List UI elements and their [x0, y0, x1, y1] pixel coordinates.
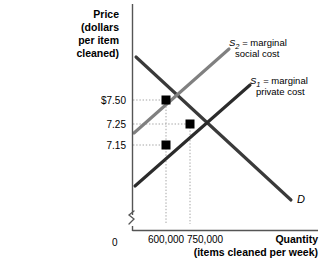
y-tick-label-1: 7.25	[107, 119, 127, 130]
marker-social-optimum	[162, 96, 171, 105]
y-tick-label-2: 7.15	[107, 140, 127, 151]
y-tick-label-0: $7.50	[101, 95, 126, 106]
y-axis-break-icon	[129, 211, 134, 224]
s2-curve-label: S2 = marginal social cost	[229, 37, 287, 59]
x-tick-label-0: 600,000	[148, 234, 185, 245]
y-axis-title-line-1: Price	[93, 8, 119, 20]
x-axis-title-line-1: Quantity	[275, 233, 318, 245]
s1-label-line-2: private cost	[256, 86, 305, 97]
y-axis-title-line-3: per item	[78, 34, 119, 46]
x-axis-title-line-2: (items cleaned per week)	[194, 246, 318, 258]
y-axis-title-line-2: (dollars	[81, 21, 119, 33]
y-axis-title-line-4: cleaned)	[76, 47, 119, 59]
y-axis-title: Price (dollars per item cleaned)	[76, 8, 119, 59]
marker-market-equilibrium	[186, 120, 195, 129]
marginal-social-cost-curve	[134, 49, 229, 133]
s1-label-rest: = marginal	[261, 75, 308, 86]
x-tick-label-1: 750,000	[187, 234, 224, 245]
demand-curve-label: D	[297, 193, 305, 205]
s2-label-line-2: social cost	[235, 48, 280, 59]
economics-externality-chart: Price (dollars per item cleaned) $7.50 7…	[0, 0, 328, 260]
s2-label-rest: = marginal	[240, 37, 287, 48]
origin-label: 0	[112, 237, 118, 248]
marker-private-cost-at-600k	[162, 141, 171, 150]
s1-curve-label: S1 = marginal private cost	[250, 75, 308, 97]
